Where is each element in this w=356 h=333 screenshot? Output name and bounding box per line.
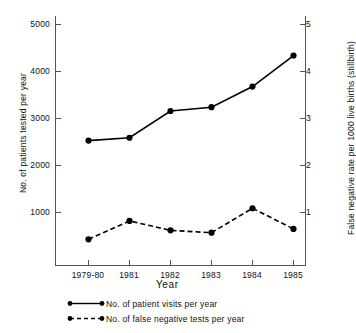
data-point: 1984: 1090 [249, 205, 255, 211]
legend-item-patient-visits: No. of patient visits per year [66, 296, 326, 311]
series-line [89, 56, 294, 141]
data-point: 1982: 620 [167, 227, 173, 233]
data-point: 1985: 4340 [290, 52, 296, 58]
legend-symbol-solid [66, 298, 106, 309]
series-false-negative-tests: 1979-80: 4301981: 8201982: 6201983: 5701… [85, 205, 296, 242]
data-point: 1985: 650 [290, 226, 296, 232]
data-point: 1979-80: 2530 [85, 137, 91, 143]
series-line [89, 208, 294, 239]
data-point: 1981: 2590 [126, 135, 132, 141]
chart-legend: No. of patient visits per year No. of fa… [66, 296, 326, 326]
data-point: 1984: 3680 [249, 83, 255, 89]
data-point: 1981: 820 [126, 218, 132, 224]
series-patient-visits: 1979-80: 25301981: 25901982: 31601983: 3… [85, 52, 296, 143]
legend-symbol-dashed [66, 313, 106, 324]
legend-item-false-negative-tests: No. of false negative tests per year [66, 311, 326, 326]
data-point: 1979-80: 430 [85, 236, 91, 242]
legend-label-patient-visits: No. of patient visits per year [106, 299, 217, 309]
data-point: 1982: 3160 [167, 108, 173, 114]
data-point: 1983: 570 [208, 230, 214, 236]
legend-label-false-negative-tests: No. of false negative tests per year [106, 314, 245, 324]
data-point: 1983: 3240 [208, 104, 214, 110]
